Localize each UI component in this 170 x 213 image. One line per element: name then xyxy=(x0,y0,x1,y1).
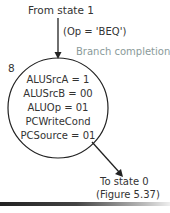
signal-alusrca: ALUSrcA = 1 xyxy=(8,73,108,86)
phase-label: Branch completion xyxy=(76,46,170,58)
bottom-divider xyxy=(0,202,170,206)
outgoing-arrow-line xyxy=(92,142,119,172)
signal-alusrcb: ALUSrcB = 00 xyxy=(8,87,108,100)
figure-reference: (Figure 5.37) xyxy=(96,189,160,201)
transition-condition: (Op = 'BEQ') xyxy=(63,26,126,38)
fsm-diagram: From state 1 (Op = 'BEQ') Branch complet… xyxy=(0,0,170,213)
target-state-label: To state 0 xyxy=(100,176,149,188)
source-state-label: From state 1 xyxy=(28,4,94,16)
signal-aluop: ALUOp = 01 xyxy=(8,101,108,114)
signal-pcwritecond: PCWriteCond xyxy=(8,115,108,128)
signal-pcsource: PCSource = 01 xyxy=(8,129,108,142)
